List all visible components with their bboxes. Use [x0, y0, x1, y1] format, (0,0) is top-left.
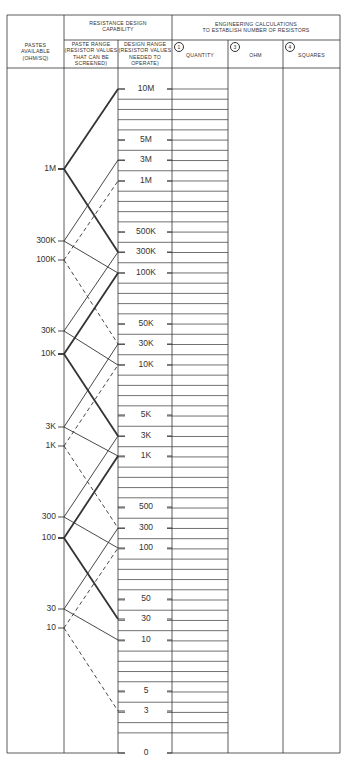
design-value-label: 500	[125, 502, 167, 511]
connection-line	[64, 273, 118, 354]
paste-value-label: 300	[16, 512, 56, 521]
design-value-label: 10M	[125, 84, 167, 93]
design-value-label: 5M	[125, 135, 167, 144]
header-line: (OHM/SQ)	[7, 55, 64, 61]
paste-value-label: 100K	[16, 255, 56, 264]
paste-value-label: 30	[16, 604, 56, 613]
header-engineering-calculations: ENGINEERING CALCULATIONS TO ESTABLISH NU…	[172, 21, 340, 34]
connection-line	[64, 456, 118, 538]
header-quantity: QUANTITY	[172, 52, 228, 58]
paste-value-label: 10	[16, 623, 56, 632]
header-squares: SQUARES	[283, 52, 340, 58]
connection-line	[64, 331, 118, 365]
design-value-label: 10	[125, 635, 167, 644]
paste-value-label: 100	[16, 533, 56, 542]
connection-line	[64, 446, 118, 528]
connection-line	[64, 241, 118, 273]
connection-line	[64, 344, 118, 427]
header-line: TO ESTABLISH NUMBER OF RESISTORS	[172, 27, 340, 33]
connection-line	[64, 609, 118, 640]
design-value-label: 500K	[125, 227, 167, 236]
header-line: SCREENED)	[64, 60, 118, 66]
header-ohm: OHM	[228, 52, 283, 58]
circled-number-icon: 4	[285, 42, 295, 52]
design-value-label: 50K	[125, 319, 167, 328]
connection-line	[64, 160, 118, 241]
design-value-label: 300	[125, 523, 167, 532]
design-value-label: 5K	[125, 410, 167, 419]
header-pastes-available: PASTES AVAILABLE (OHM/SQ)	[7, 42, 64, 61]
design-value-label: 100K	[125, 268, 167, 277]
connection-line	[64, 548, 118, 628]
header-design-range: DESIGN RANGE (RESISTOR VALUES NEEDED TO …	[118, 41, 172, 67]
header-line: CAPABILITY	[64, 26, 172, 32]
design-value-label: 5	[125, 686, 167, 695]
paste-value-label: 1K	[16, 441, 56, 450]
header-line: (RESISTOR VALUES	[64, 47, 118, 53]
connection-line	[64, 427, 118, 456]
connection-line	[64, 365, 118, 446]
paste-value-label: 30K	[16, 326, 56, 335]
design-value-label: 300K	[125, 247, 167, 256]
paste-value-label: 3K	[16, 422, 56, 431]
design-value-label: 3	[125, 706, 167, 715]
paste-value-label: 1M	[16, 164, 56, 173]
connection-line	[64, 517, 118, 548]
design-value-label: 1M	[125, 176, 167, 185]
connection-line	[64, 528, 118, 609]
connection-line	[64, 354, 118, 436]
design-value-label: 0	[125, 748, 167, 757]
connection-line	[64, 538, 118, 619]
design-value-label: 10K	[125, 360, 167, 369]
connection-line	[64, 260, 118, 344]
connection-line	[64, 628, 118, 711]
design-value-label: 100	[125, 543, 167, 552]
design-value-label: 50	[125, 594, 167, 603]
header-line: OPERATE)	[118, 60, 172, 66]
design-value-label: 3K	[125, 431, 167, 440]
header-resistance-design: RESISTANCE DESIGN CAPABILITY	[64, 20, 172, 33]
header-paste-range: PASTE RANGE (RESISTOR VALUES THAT CAN BE…	[64, 41, 118, 67]
design-value-label: 3M	[125, 155, 167, 164]
circled-number-icon: 1	[174, 42, 184, 52]
nomograph-canvas	[0, 0, 344, 759]
paste-value-label: 10K	[16, 349, 56, 358]
connection-line	[64, 181, 118, 260]
connection-line	[64, 252, 118, 331]
connection-line	[64, 169, 118, 252]
connection-line	[64, 436, 118, 517]
connection-line	[64, 89, 118, 169]
paste-value-label: 300K	[16, 236, 56, 245]
design-value-label: 30K	[125, 339, 167, 348]
design-value-label: 30	[125, 614, 167, 623]
design-value-label: 1K	[125, 451, 167, 460]
header-line: (RESISTOR VALUES	[118, 47, 172, 53]
circled-number-icon: 3	[230, 42, 240, 52]
